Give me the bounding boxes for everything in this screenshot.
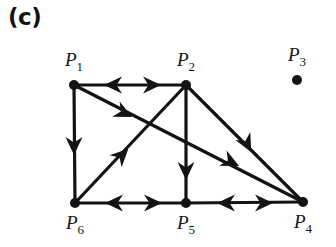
vertex-p4 bbox=[298, 197, 308, 207]
vertex-label-p1: P1 bbox=[64, 49, 83, 74]
vertex-label-p6: P6 bbox=[65, 212, 85, 237]
vertex-label-p3: P3 bbox=[287, 44, 306, 69]
vertex-p3 bbox=[292, 75, 302, 85]
vertex-label-p2: P2 bbox=[176, 49, 195, 74]
graph-edge-p6-p2 bbox=[75, 85, 186, 203]
directed-graph-diagram: P1P2P3P4P5P6 bbox=[0, 0, 336, 247]
vertex-label-p5: P5 bbox=[176, 212, 195, 237]
vertices-layer bbox=[69, 75, 308, 208]
vertex-p1 bbox=[69, 80, 79, 90]
edges-layer bbox=[74, 85, 303, 203]
labels-layer: P1P2P3P4P5P6 bbox=[64, 44, 313, 237]
graph-edge-p5-p4 bbox=[186, 202, 303, 203]
vertex-p5 bbox=[181, 198, 191, 208]
figure-panel-c: (c) P1P2P3P4P5P6 bbox=[0, 0, 336, 247]
vertex-p2 bbox=[181, 80, 191, 90]
graph-edge-p1-p4 bbox=[74, 85, 303, 202]
vertex-p6 bbox=[70, 198, 80, 208]
vertex-label-p4: P4 bbox=[293, 211, 313, 236]
